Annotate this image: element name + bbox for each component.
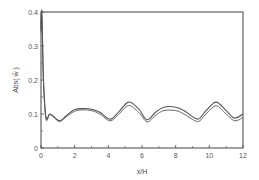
- x-tick-label: 10: [205, 152, 213, 159]
- x-tick-label: 4: [106, 152, 110, 159]
- x-tick-label: 6: [140, 152, 144, 159]
- series-line-upper: [41, 10, 243, 121]
- y-tick-label: 0.1: [28, 111, 38, 118]
- data-series: [41, 10, 243, 122]
- y-tick-label: 0.4: [28, 9, 38, 16]
- x-axis-ticks: 024681012: [39, 145, 247, 159]
- x-tick-label: 12: [239, 152, 247, 159]
- series-line-lower: [41, 14, 243, 122]
- y-tick-label: 0.2: [28, 77, 38, 84]
- x-tick-label: 8: [174, 152, 178, 159]
- y-tick-label: 0: [34, 145, 38, 152]
- plot-frame: [41, 12, 243, 148]
- y-axis-label: Abs( w̄ ): [12, 67, 20, 93]
- y-tick-label: 0.3: [28, 43, 38, 50]
- line-chart: 024681012 00.10.20.30.4 x/H Abs( w̄ ): [0, 0, 259, 180]
- x-tick-label: 2: [73, 152, 77, 159]
- x-axis-label: x/H: [137, 168, 148, 175]
- x-tick-label: 0: [39, 152, 43, 159]
- y-axis-ticks: 00.10.20.30.4: [28, 9, 44, 152]
